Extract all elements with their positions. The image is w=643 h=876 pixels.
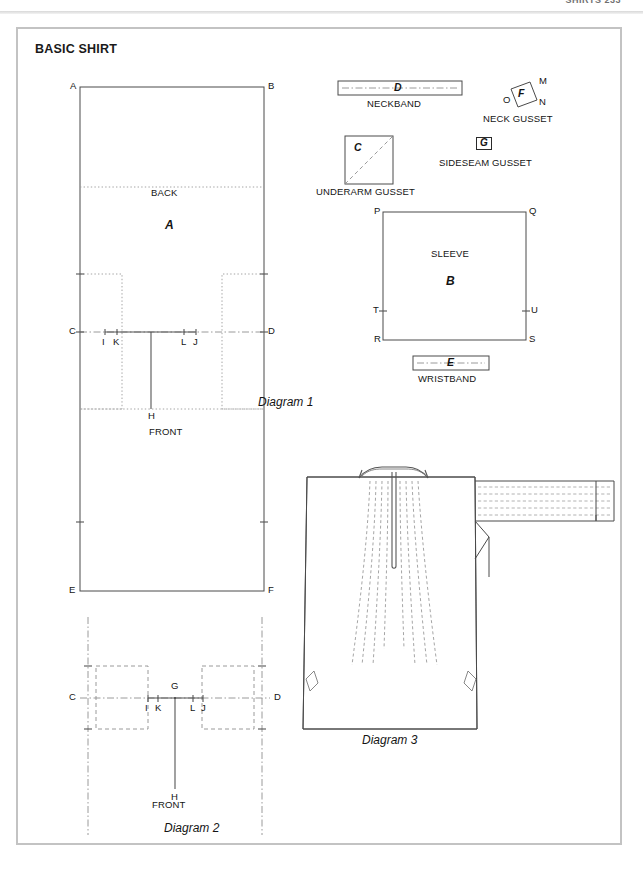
piece-letter-c: C xyxy=(354,142,362,153)
piece-letter-g: G xyxy=(476,137,492,150)
neck-gusset-caption: NECK GUSSET xyxy=(483,114,553,124)
point-label-l: L xyxy=(181,337,186,347)
d2-point-label-d: D xyxy=(274,692,281,702)
point-label-d: D xyxy=(268,326,275,336)
point-label-i: I xyxy=(102,337,105,347)
point-label-f: F xyxy=(268,585,274,595)
point-label-j: J xyxy=(193,337,198,347)
diagram1-caption: Diagram 1 xyxy=(258,396,313,408)
piece-letter-a: A xyxy=(165,219,174,231)
diagram2-caption: Diagram 2 xyxy=(164,822,219,834)
piece-letter-f: F xyxy=(518,88,524,99)
d2-point-label-k: K xyxy=(155,703,161,713)
d2-point-label-g: G xyxy=(171,681,178,691)
d2-point-label-j: J xyxy=(201,703,206,713)
point-label-b: B xyxy=(268,81,274,91)
point-label-c: C xyxy=(69,326,76,336)
sleeve-label: SLEEVE xyxy=(431,249,469,259)
point-label-q: Q xyxy=(529,206,536,216)
header-rule xyxy=(0,11,643,14)
point-label-u: U xyxy=(531,305,538,315)
d2-point-label-l: L xyxy=(190,703,195,713)
plate-inner-border xyxy=(20,31,618,841)
diagram3-caption: Diagram 3 xyxy=(362,734,417,746)
pattern-plate: BASIC SHIRT .solid { stroke:#4a4a4a; str… xyxy=(16,27,622,845)
point-label-r: R xyxy=(374,334,381,344)
piece-letter-d: D xyxy=(394,82,402,93)
piece-letter-b: B xyxy=(446,275,455,287)
back-label: BACK xyxy=(151,188,177,198)
point-label-a: A xyxy=(70,81,76,91)
wristband-caption: WRISTBAND xyxy=(418,374,476,384)
d2-point-label-i: I xyxy=(145,703,148,713)
piece-letter-e: E xyxy=(447,357,454,368)
point-label-e: E xyxy=(69,585,75,595)
sideseam-gusset-caption: SIDESEAM GUSSET xyxy=(439,158,532,168)
point-label-k: K xyxy=(113,337,119,347)
point-label-h: H xyxy=(148,411,155,421)
point-label-m: M xyxy=(539,76,547,86)
running-head-text: SHIRTS 233 xyxy=(565,0,621,5)
point-label-o: O xyxy=(503,95,510,105)
neckband-caption: NECKBAND xyxy=(367,99,421,109)
d2-front-label: FRONT xyxy=(152,800,185,810)
front-label: FRONT xyxy=(149,427,182,437)
plate-title: BASIC SHIRT xyxy=(35,42,117,56)
d2-point-label-c: C xyxy=(69,692,76,702)
point-label-n: N xyxy=(539,97,546,107)
point-label-s: S xyxy=(529,334,535,344)
point-label-t: T xyxy=(373,305,379,315)
underarm-gusset-caption: UNDERARM GUSSET xyxy=(316,187,415,197)
pattern-page: SHIRTS 233 BASIC SHIRT .solid { stroke:#… xyxy=(0,0,643,876)
point-label-p: P xyxy=(374,206,380,216)
